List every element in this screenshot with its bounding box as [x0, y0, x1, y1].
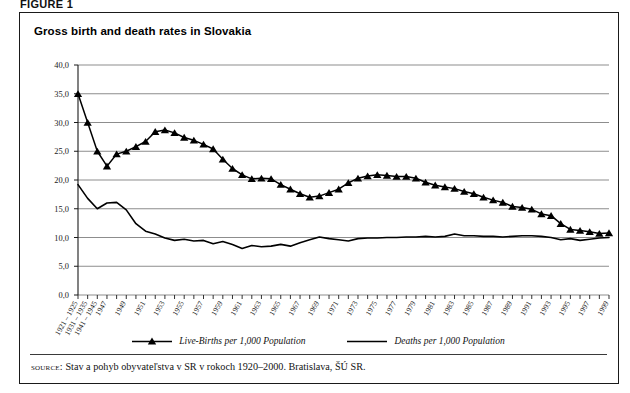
- figure-label: FIGURE 1: [20, 0, 73, 10]
- x-tick-label: 1955: [171, 299, 186, 317]
- chart-svg: 0,05,010,015,020,025,030,035,040,0 1921 …: [20, 57, 617, 347]
- x-tick-label: 1965: [267, 299, 282, 317]
- x-tick-label: 1953: [151, 299, 166, 317]
- chart-title: Gross birth and death rates in Slovakia: [34, 25, 251, 37]
- x-tick-label: 1987: [479, 299, 494, 317]
- legend-label-live-births: Live-Births per 1,000 Population: [179, 336, 305, 346]
- y-tick-label: 40,0: [54, 61, 69, 70]
- x-tick-label: 1983: [441, 299, 456, 317]
- x-tick-label: 1981: [422, 299, 437, 317]
- x-tick-label: 1997: [576, 299, 591, 317]
- y-tick-label: 20,0: [54, 176, 69, 185]
- legend-source-divider: [30, 354, 607, 355]
- data-point-marker: [132, 143, 140, 150]
- series-deaths-line: [78, 185, 609, 249]
- x-axis-tick-marks: [78, 295, 609, 299]
- chart-legend: Live-Births per 1,000 Population Deaths …: [20, 331, 617, 351]
- x-tick-label: 1973: [344, 299, 359, 317]
- x-tick-label: 1967: [286, 299, 301, 317]
- triangle-marker-icon: [132, 335, 172, 347]
- source-label: source:: [31, 361, 63, 372]
- y-tick-label: 25,0: [54, 147, 69, 156]
- y-tick-label: 35,0: [54, 90, 69, 99]
- x-tick-label: 1975: [364, 299, 379, 317]
- data-point-marker: [286, 186, 294, 193]
- gridlines-group: [78, 65, 609, 295]
- x-tick-label: 1959: [209, 299, 224, 317]
- x-tick-label: 1961: [228, 299, 243, 317]
- legend-label-deaths: Deaths per 1,000 Population: [394, 336, 504, 346]
- y-axis-tick-marks: [74, 65, 78, 295]
- legend-item-live-births: Live-Births per 1,000 Population: [132, 335, 305, 347]
- figure-box: Gross birth and death rates in Slovakia …: [19, 12, 619, 384]
- data-point-marker: [199, 141, 207, 148]
- x-tick-label: 1989: [499, 299, 514, 317]
- x-tick-label: 1957: [190, 299, 205, 317]
- y-axis-tick-labels: 0,05,010,015,020,025,030,035,040,0: [54, 61, 69, 300]
- data-point-marker: [296, 190, 304, 197]
- series-births-line: [74, 90, 613, 237]
- y-tick-label: 10,0: [54, 234, 69, 243]
- source-line: source: Stav a pohyb obyvateľstva v SR v…: [31, 361, 606, 372]
- x-tick-label: 1977: [383, 299, 398, 317]
- x-tick-label: 1991: [518, 299, 533, 317]
- x-tick-label: 1947: [93, 299, 108, 317]
- x-tick-label: 1949: [113, 299, 128, 317]
- chart-plot-area: 0,05,010,015,020,025,030,035,040,0 1921 …: [20, 57, 617, 347]
- data-point-marker: [325, 189, 333, 196]
- x-tick-label: 1979: [402, 299, 417, 317]
- source-text: Stav a pohyb obyvateľstva v SR v rokoch …: [65, 361, 365, 372]
- legend-item-deaths: Deaths per 1,000 Population: [347, 335, 504, 347]
- y-tick-label: 30,0: [54, 119, 69, 128]
- x-tick-label: 1985: [460, 299, 475, 317]
- y-tick-label: 0,0: [59, 291, 69, 300]
- x-tick-label: 1951: [132, 299, 147, 317]
- x-tick-label: 1993: [537, 299, 552, 317]
- x-tick-label: 1999: [595, 299, 610, 317]
- x-tick-label: 1963: [248, 299, 263, 317]
- y-tick-label: 15,0: [54, 205, 69, 214]
- y-tick-label: 5,0: [59, 262, 69, 271]
- data-point-marker: [180, 134, 188, 141]
- data-point-marker: [479, 194, 487, 201]
- x-tick-label: 1969: [306, 299, 321, 317]
- data-point-marker: [209, 145, 217, 152]
- x-tick-label: 1971: [325, 299, 340, 317]
- x-tick-label: 1995: [557, 299, 572, 317]
- line-marker-icon: [347, 335, 387, 347]
